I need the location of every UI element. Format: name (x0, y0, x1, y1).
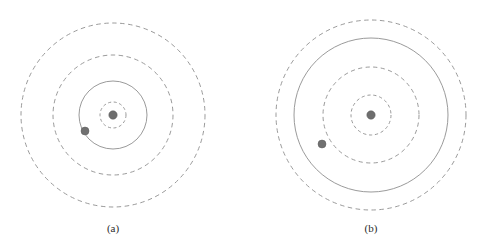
figure-container: (a) (b) (0, 0, 502, 243)
panel-a: (a) (21, 23, 205, 235)
panel-b-nucleus (367, 111, 375, 119)
atomic-orbit-figure: (a) (b) (0, 0, 502, 243)
panel-b: (b) (276, 20, 466, 235)
panel-b-electron (318, 140, 326, 148)
panel-a-nucleus (109, 111, 117, 119)
panel-a-electron (81, 127, 89, 135)
panel-b-caption: (b) (365, 222, 378, 235)
panel-a-caption: (a) (107, 222, 120, 235)
